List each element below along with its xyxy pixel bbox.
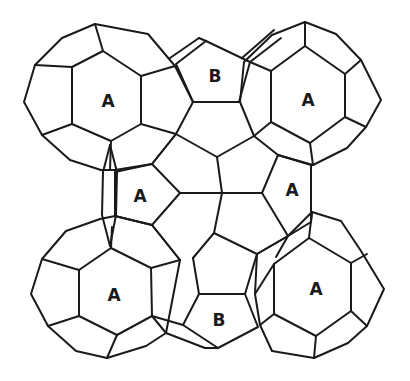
label-top-left-a: A (101, 93, 114, 110)
label-bottom-right-a: A (309, 281, 322, 298)
polyhedra-packing-diagram (0, 0, 410, 381)
label-bottom-center-b: B (213, 312, 226, 329)
label-top-center-b: B (209, 68, 222, 85)
label-mid-left-a: A (133, 188, 146, 205)
cell-bottom-center-b (152, 254, 258, 348)
cell-bottom-left-a (31, 216, 180, 358)
label-mid-right-a: A (285, 182, 298, 199)
label-top-right-a: A (301, 92, 314, 109)
label-bottom-left-a: A (107, 287, 120, 304)
